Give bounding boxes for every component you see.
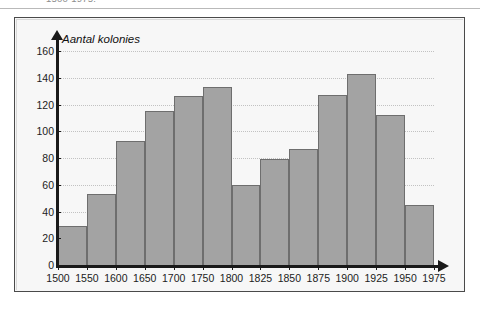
x-axis-tickmark (58, 265, 59, 270)
y-axis-tick-label: 140 (20, 73, 54, 83)
x-axis-arrow-icon (438, 260, 449, 272)
y-axis-tickmark (56, 131, 61, 132)
plot-area (58, 51, 434, 265)
y-axis-tick-label: 80 (20, 153, 54, 163)
bar (260, 159, 289, 265)
x-axis-tickmark (376, 265, 377, 270)
x-axis-tickmark (260, 265, 261, 270)
x-axis-tickmark (203, 265, 204, 270)
bar (116, 141, 145, 265)
bar (87, 194, 116, 265)
bar (232, 185, 261, 265)
y-axis-tick-label: 100 (20, 126, 54, 136)
y-axis-tickmark (56, 212, 61, 213)
y-axis-tick-label: 20 (20, 233, 54, 243)
bar (318, 95, 347, 265)
y-axis-tick-labels: 020406080100120140160 (14, 0, 54, 309)
x-axis-tickmark (116, 265, 117, 270)
y-axis-line (56, 38, 59, 267)
y-axis-tick-label: 160 (20, 46, 54, 56)
y-axis-tick-label: 0 (20, 260, 54, 270)
y-axis-tickmark (56, 51, 61, 52)
y-axis-tick-label: 40 (20, 207, 54, 217)
y-axis-tickmark (56, 78, 61, 79)
x-axis-tickmark (318, 265, 319, 270)
bar (145, 111, 174, 265)
y-axis-tickmark (56, 238, 61, 239)
y-axis-tickmark (56, 158, 61, 159)
x-axis-tickmark (405, 265, 406, 270)
x-axis-tickmark (232, 265, 233, 270)
bar-series (58, 51, 434, 265)
bar (347, 74, 376, 265)
x-axis-tickmark (174, 265, 175, 270)
y-axis-tick-label: 60 (20, 180, 54, 190)
y-axis-tickmark (56, 185, 61, 186)
x-axis-tickmark (145, 265, 146, 270)
bar (174, 96, 203, 265)
bar (58, 226, 87, 265)
x-axis-tickmark (347, 265, 348, 270)
y-axis-title: Aantal kolonies (62, 33, 140, 45)
y-axis-tick-label: 120 (20, 100, 54, 110)
bar (376, 115, 405, 265)
caption-divider (0, 8, 480, 9)
x-axis-tickmark (87, 265, 88, 270)
y-axis-tickmark (56, 105, 61, 106)
x-axis-tick-label: 1975 (414, 272, 454, 284)
x-axis-line (56, 265, 440, 268)
x-axis-tickmark (289, 265, 290, 270)
bar (405, 205, 434, 265)
bar (289, 149, 318, 265)
x-axis-tickmark (434, 265, 435, 270)
bar (203, 87, 232, 265)
